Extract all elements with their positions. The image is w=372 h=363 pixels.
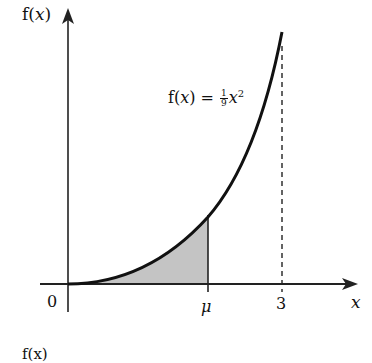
mu-label: μ bbox=[201, 297, 211, 316]
function-label: f(x) = 19x2 bbox=[168, 88, 244, 108]
fraction-one-ninth: 19 bbox=[220, 89, 228, 108]
y-axis-label: f(x) bbox=[22, 4, 51, 24]
shaded-region bbox=[68, 217, 208, 284]
origin-label: 0 bbox=[47, 292, 57, 311]
three-label: 3 bbox=[276, 294, 286, 313]
bottom-partial-label: f(x) bbox=[22, 345, 48, 363]
function-curve bbox=[68, 32, 282, 284]
x-axis-label: x bbox=[351, 292, 361, 312]
